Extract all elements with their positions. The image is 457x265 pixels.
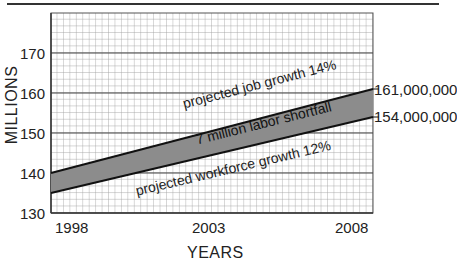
- x-tick-2008: 2008: [335, 219, 368, 236]
- x-tick-2003: 2003: [192, 219, 225, 236]
- x-tick-1998: 1998: [55, 219, 88, 236]
- end-label-bottom: 154,000,000: [374, 108, 457, 125]
- y-tick-160: 160: [20, 85, 45, 102]
- x-axis-title: YEARS: [187, 244, 244, 262]
- y-tick-150: 150: [20, 125, 45, 142]
- y-tick-140: 140: [20, 165, 45, 182]
- y-tick-170: 170: [20, 45, 45, 62]
- y-tick-130: 130: [20, 205, 45, 222]
- y-axis-title: MILLIONS: [3, 65, 21, 145]
- end-label-top: 161,000,000: [374, 81, 457, 98]
